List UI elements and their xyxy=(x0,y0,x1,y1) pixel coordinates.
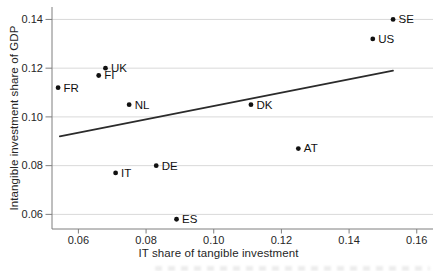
data-point xyxy=(391,17,396,22)
data-point xyxy=(174,217,179,222)
data-point xyxy=(113,171,118,176)
point-label: DK xyxy=(256,99,272,111)
x-tick-label: 0.06 xyxy=(68,234,89,246)
scatter-plot: 0.060.080.100.120.140.060.080.100.120.14… xyxy=(0,0,437,271)
data-point xyxy=(154,163,159,168)
point-label: FR xyxy=(64,82,79,94)
point-label: FI xyxy=(104,69,114,81)
y-tick-label: 0.12 xyxy=(22,62,43,74)
x-tick-label: 0.10 xyxy=(203,234,224,246)
data-point xyxy=(56,85,61,90)
y-tick-label: 0.08 xyxy=(22,159,43,171)
x-tick-label: 0.14 xyxy=(338,234,359,246)
truncated-caption-artifact xyxy=(155,266,430,271)
chart-canvas: 0.060.080.100.120.140.060.080.100.120.14… xyxy=(0,0,437,271)
point-label: IT xyxy=(121,167,131,179)
y-axis-title: Intangible investment share of GDP xyxy=(8,26,20,211)
data-point xyxy=(96,73,101,78)
y-tick-label: 0.10 xyxy=(22,111,43,123)
point-label: SE xyxy=(399,13,415,25)
data-point xyxy=(127,102,132,107)
data-point xyxy=(370,37,375,42)
y-tick-label: 0.06 xyxy=(22,208,43,220)
point-label: DE xyxy=(162,160,178,172)
x-tick-label: 0.08 xyxy=(135,234,156,246)
point-label: AT xyxy=(304,142,318,154)
point-label: US xyxy=(378,33,394,45)
point-label: ES xyxy=(182,213,198,225)
x-axis-title: IT share of tangible investment xyxy=(0,247,437,259)
data-point xyxy=(296,146,301,151)
point-label: NL xyxy=(135,99,150,111)
data-point xyxy=(249,102,254,107)
x-tick-label: 0.12 xyxy=(271,234,292,246)
x-tick-label: 0.16 xyxy=(406,234,427,246)
y-tick-label: 0.14 xyxy=(22,13,43,25)
